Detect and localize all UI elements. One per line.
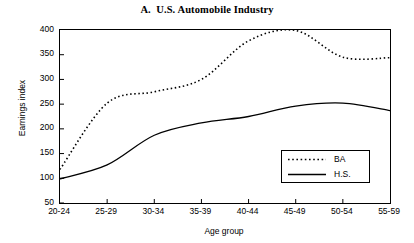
y-axis-title: Earnings index (17, 53, 27, 163)
y-tick-label: 250 (8, 99, 54, 108)
y-tick-label: 50 (8, 198, 54, 207)
legend-entry-hs: H.S. (282, 167, 371, 182)
y-tick-label: 400 (8, 25, 54, 34)
legend-label-ba: BA (334, 155, 345, 164)
y-tick-label: 100 (8, 173, 54, 182)
x-tick-label: 55-59 (359, 207, 414, 216)
legend-label-hs: H.S. (334, 170, 351, 179)
chart-legend: BA H.S. (281, 150, 370, 183)
chart-title: A. U.S. Automobile Industry (0, 4, 414, 15)
legend-swatch-solid-icon (287, 167, 327, 182)
legend-entry-ba: BA (282, 152, 371, 167)
y-tick-label: 300 (8, 74, 54, 83)
x-axis-title: Age group (59, 226, 389, 236)
y-tick-label: 350 (8, 49, 54, 58)
chart-figure: A. U.S. Automobile Industry Earnings ind… (0, 0, 414, 243)
legend-swatch-dotted-icon (287, 152, 327, 167)
y-tick-label: 150 (8, 148, 54, 157)
series-line-ba (60, 30, 390, 169)
y-tick-label: 200 (8, 123, 54, 132)
